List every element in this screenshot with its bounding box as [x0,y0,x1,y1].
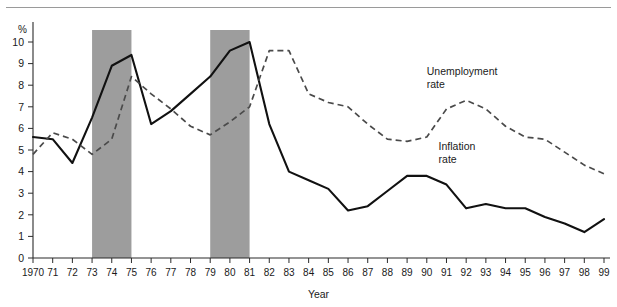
x-tick-label: 76 [146,267,158,278]
unemployment-label: Unemploymentrate [427,65,498,90]
y-tick-label: 3 [18,187,24,199]
x-tick-label: 81 [244,267,256,278]
y-tick-label: 9 [18,57,24,69]
y-tick-label: 10 [12,36,24,48]
y-tick-label: 1 [18,230,24,242]
x-tick-label: 97 [559,267,571,278]
x-tick-label: 82 [264,267,276,278]
x-tick-label: 92 [461,267,473,278]
y-tick-label: 7 [18,101,24,113]
y-tick-label: 4 [18,165,24,177]
x-tick-label: 85 [323,267,335,278]
shaded-band-recession-1979-1981 [210,30,249,258]
x-tick-label: 98 [579,267,591,278]
y-tick-label: 8 [18,79,24,91]
x-tick-label: 84 [303,267,315,278]
x-tick-label: 96 [539,267,551,278]
y-tick-label: 5 [18,144,24,156]
x-tick-label: 71 [47,267,59,278]
x-tick-label: 89 [402,267,414,278]
x-tick-label: 99 [598,267,610,278]
x-tick-label: 78 [185,267,197,278]
x-tick-label: 83 [283,267,295,278]
y-axis-unit-label: % [18,24,27,35]
x-tick-label: 94 [500,267,512,278]
x-tick-label: 91 [441,267,453,278]
x-tick-label: 93 [480,267,492,278]
y-tick-label: 0 [18,252,24,264]
x-tick-label: 86 [342,267,354,278]
x-tick-label: 72 [67,267,79,278]
x-tick-label: 95 [520,267,532,278]
x-tick-label: 90 [421,267,433,278]
chart-container: 012345678910%197071727374757677787980818… [0,0,617,307]
x-tick-label: 75 [126,267,138,278]
inflation-label: Inflationrate [439,140,476,165]
x-tick-label: 77 [165,267,177,278]
x-axis-title: Year [308,288,330,300]
shaded-band-recession-1973-1975 [92,30,131,258]
x-tick-label: 80 [224,267,236,278]
y-tick-label: 2 [18,209,24,221]
y-tick-label: 6 [18,122,24,134]
x-tick-label: 87 [362,267,374,278]
x-tick-label: 79 [205,267,217,278]
x-tick-label: 88 [382,267,394,278]
x-tick-label: 74 [106,267,118,278]
x-tick-label: 1970 [22,267,45,278]
x-tick-label: 73 [87,267,99,278]
line-chart: 012345678910%197071727374757677787980818… [0,0,617,307]
